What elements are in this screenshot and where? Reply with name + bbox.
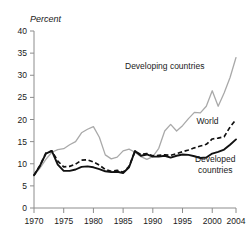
x-tick-label: 1975 <box>54 216 73 226</box>
y-tick-label: 35 <box>18 48 28 58</box>
y-tick-label: 0 <box>22 203 27 213</box>
y-axis-ticks: 0510152025303540 <box>18 26 34 213</box>
y-tick-label: 15 <box>18 137 28 147</box>
y-tick-label: 25 <box>18 92 28 102</box>
y-tick-label: 20 <box>18 115 28 125</box>
y-tick-label: 10 <box>18 159 28 169</box>
y-tick-label: 5 <box>22 181 27 191</box>
chart-container: Percent 0510152025303540 197019751980198… <box>0 0 252 246</box>
x-tick-label: 2000 <box>203 216 222 226</box>
x-tick-label: 1985 <box>114 216 133 226</box>
series-label-world: World <box>196 116 218 126</box>
y-tick-label: 40 <box>18 26 28 36</box>
y-tick-label: 30 <box>18 70 28 80</box>
x-tick-label: 1995 <box>173 216 192 226</box>
x-tick-label: 2004 <box>227 216 246 226</box>
x-tick-label: 1990 <box>143 216 162 226</box>
series-label-developing-countries: Developing countries <box>125 61 204 71</box>
x-tick-label: 1970 <box>25 216 44 226</box>
series-label-developed: Developed <box>195 154 236 164</box>
x-axis-ticks: 19701975198019851990199520002004 <box>25 208 246 226</box>
x-tick-label: 1980 <box>84 216 103 226</box>
series-label-countries: countries <box>198 165 233 175</box>
line-chart: Percent 0510152025303540 197019751980198… <box>0 0 252 246</box>
y-axis-title: Percent <box>30 14 62 24</box>
